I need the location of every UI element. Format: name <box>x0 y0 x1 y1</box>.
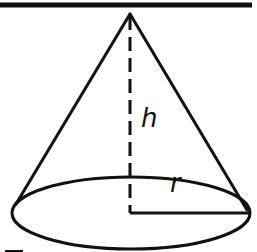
cone-diagram: h r <box>0 0 257 252</box>
radius-label: r <box>170 168 183 198</box>
height-label: h <box>141 103 157 133</box>
cone-left-side <box>16 14 130 204</box>
